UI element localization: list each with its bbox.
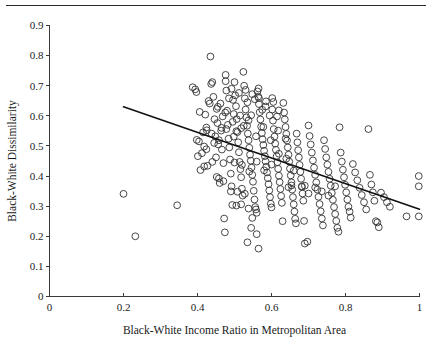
data-point <box>281 116 288 123</box>
data-point <box>236 149 243 156</box>
data-point <box>250 187 257 194</box>
data-point <box>222 71 229 78</box>
data-point <box>415 213 422 220</box>
data-point <box>363 206 370 213</box>
data-point <box>306 133 313 140</box>
data-point <box>240 68 247 75</box>
y-tick-label: 0 <box>38 290 44 302</box>
data-point <box>266 187 273 194</box>
data-point <box>317 208 324 215</box>
data-point <box>206 100 213 107</box>
data-point <box>375 224 382 231</box>
data-point <box>230 111 237 118</box>
y-tick-label: 0.9 <box>30 19 44 31</box>
data-point <box>278 199 285 206</box>
data-point <box>276 179 283 186</box>
x-axis-title: Black-White Income Ratio in Metropolitan… <box>123 324 346 337</box>
data-point <box>267 194 274 201</box>
data-point <box>242 106 249 113</box>
data-point <box>235 139 242 146</box>
y-tick-label: 0.6 <box>30 110 44 122</box>
data-point <box>277 186 284 193</box>
data-point <box>272 140 279 147</box>
data-point <box>233 103 240 110</box>
data-point <box>290 194 297 201</box>
data-point <box>251 196 258 203</box>
y-tick-label: 0.2 <box>30 230 44 242</box>
data-point <box>210 93 217 100</box>
data-point <box>269 106 276 113</box>
data-point <box>221 229 228 236</box>
data-point <box>245 205 252 212</box>
data-point <box>132 233 139 240</box>
data-point <box>295 154 302 161</box>
data-point <box>224 121 231 128</box>
data-point <box>226 144 233 151</box>
data-point <box>222 78 229 85</box>
data-point <box>283 131 290 138</box>
data-point <box>367 171 374 178</box>
data-point <box>341 174 348 181</box>
data-point <box>294 139 301 146</box>
data-point <box>324 161 331 168</box>
data-point <box>244 130 251 137</box>
data-point <box>293 220 300 227</box>
data-point <box>219 146 226 153</box>
y-tick-label: 0.5 <box>30 140 44 152</box>
data-point <box>213 154 220 161</box>
data-point <box>361 199 368 206</box>
data-point <box>320 222 327 229</box>
data-point <box>323 154 330 161</box>
chart-figure: 00.10.20.30.40.50.60.70.80.9 00.20.40.60… <box>0 0 432 345</box>
data-point <box>220 160 227 167</box>
data-point <box>415 183 422 190</box>
data-point <box>270 117 277 124</box>
y-tick-label: 0.3 <box>30 200 44 212</box>
data-point <box>330 196 337 203</box>
data-point <box>257 116 264 123</box>
x-tick-label: 0.8 <box>339 301 353 313</box>
data-point <box>233 202 240 209</box>
data-points <box>120 53 422 252</box>
data-point <box>255 245 262 252</box>
data-point <box>209 159 216 166</box>
data-point <box>244 239 251 246</box>
data-point <box>241 82 248 89</box>
data-point <box>174 202 181 209</box>
data-point <box>374 219 381 226</box>
data-point <box>242 87 249 94</box>
data-point <box>332 211 339 218</box>
data-point <box>202 111 209 118</box>
data-point <box>213 174 220 181</box>
data-point <box>345 203 352 210</box>
data-point <box>337 149 344 156</box>
data-point <box>193 137 200 144</box>
data-point <box>224 107 231 114</box>
data-point <box>307 141 314 148</box>
data-point <box>221 215 228 222</box>
data-point <box>269 95 276 102</box>
data-point <box>120 190 127 197</box>
data-point <box>371 197 378 204</box>
data-point <box>332 183 339 190</box>
data-point <box>227 170 234 177</box>
data-point <box>245 137 252 144</box>
data-point <box>285 151 292 158</box>
y-tick-label: 0.8 <box>30 49 44 61</box>
y-tick-label: 0.7 <box>30 80 44 92</box>
data-point <box>238 174 245 181</box>
data-point <box>237 166 244 173</box>
data-point <box>279 218 286 225</box>
data-point <box>318 188 325 195</box>
y-axis: 00.10.20.30.40.50.60.70.80.9 <box>30 19 50 302</box>
data-point <box>209 79 216 86</box>
x-tick-label: 0.2 <box>117 301 131 313</box>
y-axis-title: Black-White Dissimilarity <box>6 100 19 222</box>
data-point <box>301 218 308 225</box>
data-point <box>343 189 350 196</box>
data-point <box>340 166 347 173</box>
data-point <box>207 53 214 60</box>
data-point <box>253 231 260 238</box>
data-point <box>354 177 361 184</box>
data-point <box>227 188 234 195</box>
